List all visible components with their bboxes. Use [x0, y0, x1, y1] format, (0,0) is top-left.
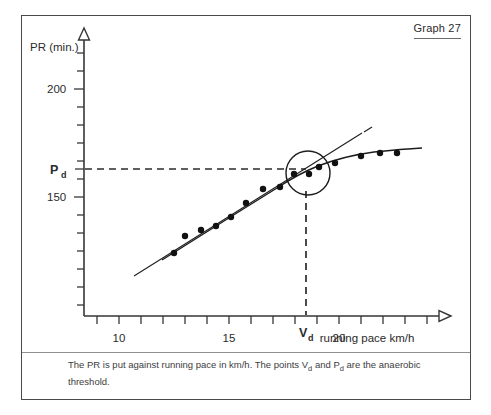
data-point-group	[171, 150, 400, 256]
data-point	[277, 184, 283, 190]
data-point	[228, 214, 234, 220]
data-point	[306, 171, 312, 177]
y-axis-title: PR (min.)	[30, 41, 79, 53]
data-point	[358, 153, 364, 159]
y-axis-group: PR (min.) 200 150 P d	[30, 28, 90, 316]
x-tick-label-10: 10	[113, 332, 126, 344]
data-point	[291, 171, 297, 177]
y-tick-label-150: 150	[47, 191, 66, 203]
pd-marker-label: P	[50, 163, 58, 177]
fitted-pr-curve	[162, 148, 422, 260]
figure-caption: The PR is put against running pace in km…	[68, 358, 444, 388]
y-tick-label-200: 200	[47, 83, 66, 95]
data-point	[260, 186, 266, 192]
data-point	[394, 150, 400, 156]
data-point	[377, 150, 383, 156]
x-tick-label-15: 15	[223, 332, 236, 344]
data-point	[171, 250, 177, 256]
vd-marker-label: V	[299, 326, 308, 340]
caption-text-part-1: The PR is put against running pace in km…	[68, 359, 308, 370]
x-axis-group: 10 15 20 V d running pace km/h	[84, 311, 451, 345]
y-axis-arrowhead	[79, 28, 90, 40]
x-axis-arrowhead	[439, 311, 451, 322]
vd-marker-subscript: d	[308, 333, 314, 343]
caption-divider	[22, 352, 470, 353]
data-point	[243, 200, 249, 206]
data-point	[182, 233, 188, 239]
chart-plot-area: PR (min.) 200 150 P d	[22, 16, 472, 401]
data-point	[316, 164, 322, 170]
x-axis-title: running pace km/h	[320, 332, 415, 344]
pd-marker-subscript: d	[61, 170, 67, 180]
data-point	[198, 227, 204, 233]
linear-trend-line-tail	[364, 127, 372, 132]
data-point	[213, 223, 219, 229]
caption-text-part-2: and P	[312, 359, 339, 370]
data-point	[332, 160, 338, 166]
screenshot-root: Graph 27	[0, 0, 491, 415]
figure-frame: Graph 27	[21, 15, 471, 400]
